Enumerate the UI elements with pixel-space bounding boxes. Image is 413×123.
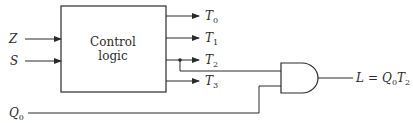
control-logic-diagram: Control logic Z S T0 T1 T2 T3 Q0 L=Q0T2 [0,0,413,123]
output-t0-label: T0 [205,9,218,25]
output-t3-label: T3 [205,74,218,90]
t2-to-and-wire [180,60,281,71]
input-s-label: S [10,54,18,68]
output-t2-label: T2 [205,53,218,69]
output-t3: T3 [166,74,218,90]
output-t1-label: T1 [205,31,218,47]
input-z-label: Z [8,32,18,46]
q0-to-and-wire [28,86,281,113]
output-l-equation: L=Q0T2 [355,71,410,87]
input-z: Z [8,32,61,46]
output-t2: T2 [166,53,218,69]
block-label-line2: logic [98,49,128,63]
input-s: S [10,54,61,68]
block-label-line1: Control [90,35,136,49]
output-t0: T0 [166,9,218,25]
output-t1: T1 [166,31,218,47]
input-q0-label: Q0 [9,106,24,122]
and-gate [281,63,318,93]
